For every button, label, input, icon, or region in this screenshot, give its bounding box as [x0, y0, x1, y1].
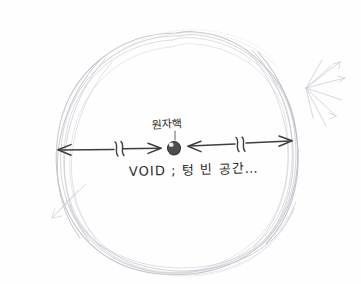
atomic-nucleus [167, 141, 180, 155]
sketch-page: 원자핵 VOID ; 텅 빈 공간… [0, 0, 361, 284]
nucleus-label: 원자핵 [151, 114, 183, 132]
right-side-spokes [306, 60, 345, 126]
void-caption: VOID ; 텅 빈 공간… [129, 158, 260, 180]
pencil-sketch-drawing [0, 0, 361, 284]
right-radius-arrow [188, 136, 292, 152]
